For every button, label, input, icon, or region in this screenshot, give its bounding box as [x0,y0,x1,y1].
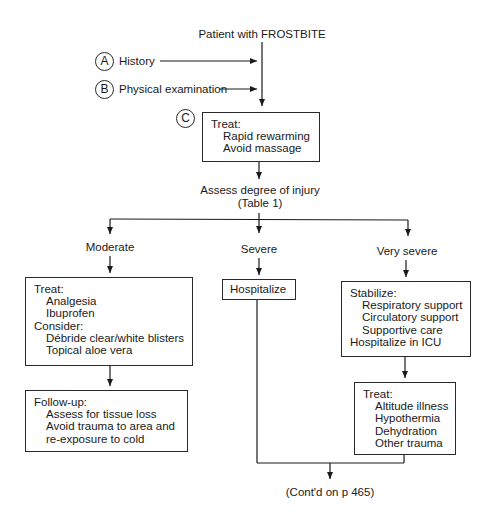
branch-label-moderate: Moderate [86,241,135,253]
assessment-line2: (Table 1) [238,197,283,209]
moderate-treat-item: Analgesia [34,295,192,307]
initial-treat-heading: Treat: [211,118,319,130]
moderate-consider-heading: Consider: [34,320,192,332]
branch-label-severe: Severe [241,243,277,255]
marker-b: B [95,80,114,99]
followup-item: Assess for tissue loss [34,408,187,420]
moderate-consider-item: Topical aloe vera [34,344,192,356]
initial-treat-item: Rapid rewarming [211,130,319,142]
stabilize-heading: Stabilize: [350,287,470,299]
history-label: History [119,55,155,67]
very-severe-treat-item: Altitude illness [363,400,455,412]
very-severe-treat-item: Hypothermia [363,412,455,424]
branch-line [110,219,408,220]
physical-exam-label: Physical examination [119,83,227,95]
stabilize-item: Supportive care [350,324,470,336]
stabilize-item: Respiratory support [350,299,470,311]
moderate-followup-box: Follow-up: Assess for tissue loss Avoid … [25,390,188,452]
initial-treatment-box: Treat: Rapid rewarming Avoid massage [202,112,320,162]
initial-treat-item: Avoid massage [211,142,319,154]
moderate-treat-heading: Treat: [34,283,192,295]
moderate-consider-item: Débride clear/white blisters [34,332,192,344]
followup-item: re-exposure to cold [34,433,187,445]
moderate-treatment-box: Treat: Analgesia Ibuprofen Consider: Déb… [25,277,193,366]
very-severe-stabilize-box: Stabilize: Respiratory support Circulato… [341,281,471,357]
very-severe-treat-item: Other trauma [363,437,455,449]
continuation-note: (Cont'd on p 465) [286,486,375,498]
followup-heading: Follow-up: [34,396,187,408]
title-patient-with-frostbite: Patient with FROSTBITE [198,28,325,40]
hospitalize-label: Hospitalize [230,283,295,295]
stabilize-footer: Hospitalize in ICU [350,336,470,348]
very-severe-treatment-box: Treat: Altitude illness Hypothermia Dehy… [354,382,456,455]
severe-hospitalize-box: Hospitalize [222,279,296,300]
very-severe-treat-item: Dehydration [363,425,455,437]
assessment-line1: Assess degree of injury [200,184,320,196]
marker-a: A [95,52,114,71]
very-severe-treat-heading: Treat: [363,388,455,400]
stabilize-item: Circulatory support [350,311,470,323]
moderate-treat-item: Ibuprofen [34,307,192,319]
followup-item: Avoid trauma to area and [34,420,187,432]
marker-c: C [176,109,195,128]
branch-label-very-severe: Very severe [377,245,438,257]
